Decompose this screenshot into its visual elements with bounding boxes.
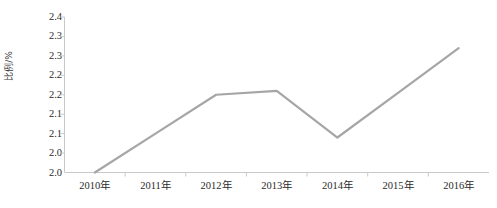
x-axis-tick-label: 2011年	[120, 180, 190, 192]
x-axis-tick-label: 2015年	[363, 180, 433, 192]
x-axis-tick-label: 2016年	[424, 180, 494, 192]
line-chart: 比例/% 2.42.32.32.22.22.12.12.02.0 2010年20…	[0, 0, 497, 208]
x-axis-tick-label: 2014年	[302, 180, 372, 192]
x-axis-tick-label: 2012年	[181, 180, 251, 192]
x-axis-tick-labels: 2010年2011年2012年2013年2014年2015年2016年	[0, 0, 497, 208]
x-axis-tick-label: 2010年	[60, 180, 130, 192]
x-axis-tick-label: 2013年	[242, 180, 312, 192]
